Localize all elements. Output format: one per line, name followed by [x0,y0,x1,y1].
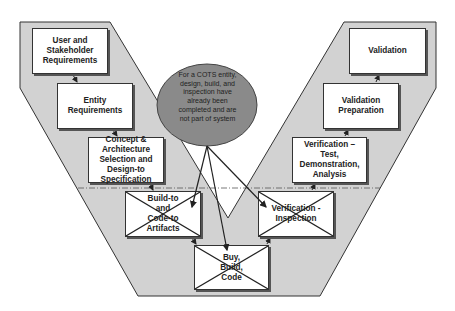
box-label: Validation Preparation [338,96,384,116]
box-label: Verification – Test, Demonstration, Anal… [295,140,364,180]
build-to-code-to-artifacts-box: Build-to and Code-to Artifacts [125,191,201,237]
concept-architecture-box: Concept & Architecture Selection and Des… [88,137,164,183]
verification-inspection-box: Verification - Inspection [258,191,334,237]
box-label: Build-to and Code-to Artifacts [146,194,179,234]
box-label: Verification - Inspection [271,204,320,224]
validation-preparation-box: Validation Preparation [323,83,399,129]
box-label: Concept & Architecture Selection and Des… [99,135,152,185]
v-model-diagram: User and Stakeholder Requirements Entity… [0,0,455,311]
verification-test-box: Verification – Test, Demonstration, Anal… [292,137,367,183]
entity-requirements-box: Entity Requirements [57,83,133,129]
buy-build-code-box: Buy, Build, Code [194,245,269,290]
user-stakeholder-requirements-box: User and Stakeholder Requirements [32,28,108,74]
cots-callout-text: For a COTS entity, design, build, and in… [160,71,255,123]
box-label: Buy, Build, Code [220,253,243,283]
validation-box: Validation [349,28,426,74]
box-label: Validation [368,46,407,56]
box-label: User and Stakeholder Requirements [43,36,98,66]
box-label: Entity Requirements [68,96,123,116]
